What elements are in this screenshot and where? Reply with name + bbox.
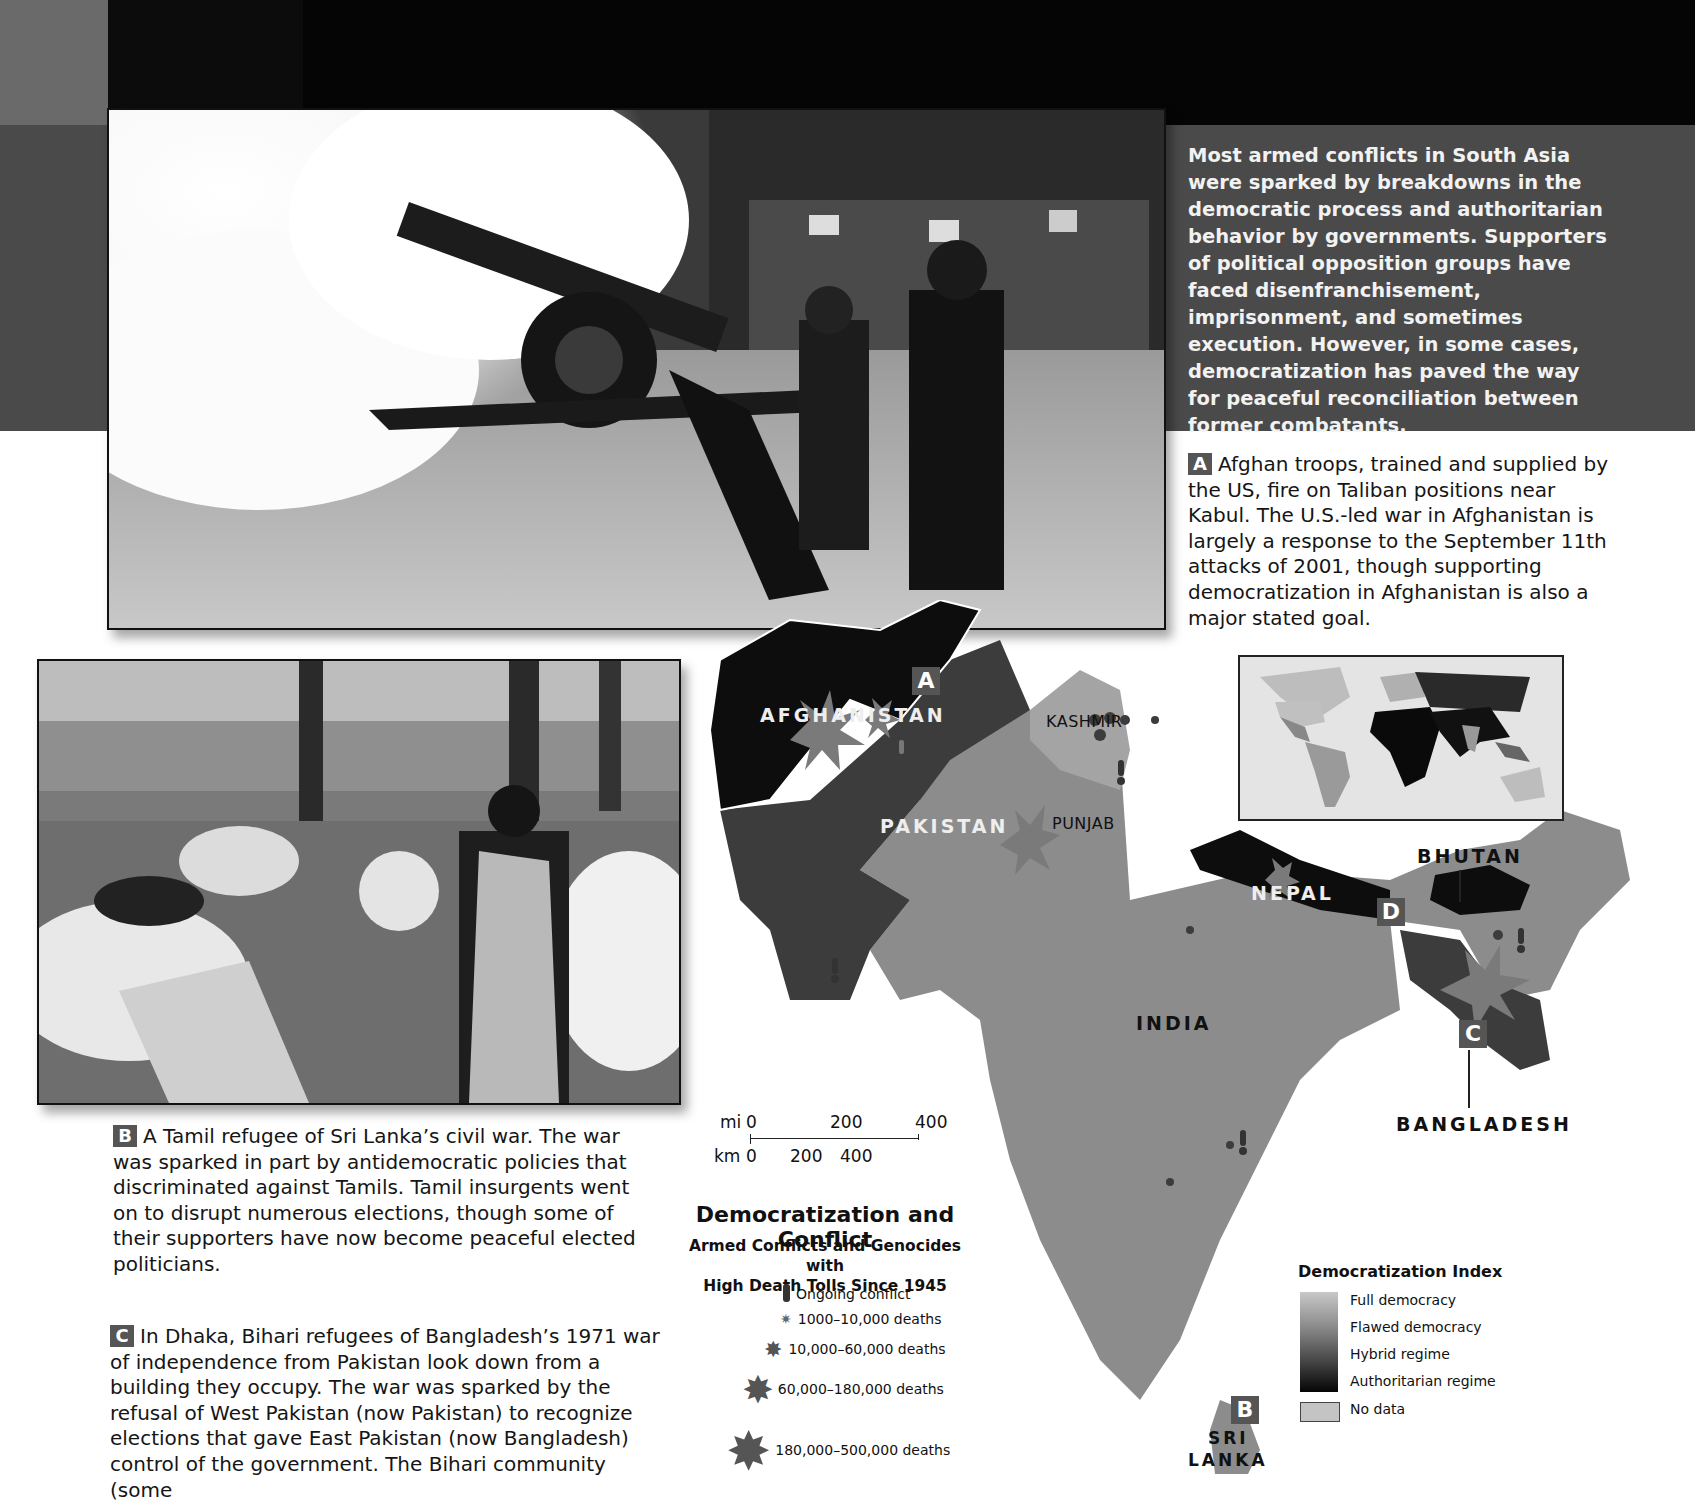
legend-item-ongoing: Ongoing conflict (783, 1284, 910, 1302)
black-corner-block (108, 0, 303, 108)
scale-km-label: km (714, 1146, 740, 1166)
legend-label: 1000–10,000 deaths (798, 1311, 942, 1327)
refugee-photo-illustration (39, 661, 679, 1103)
label-kashmir: KASHMIR (1046, 712, 1122, 731)
scale-line (750, 1138, 918, 1139)
label-sri-lanka-line1: SRI (1208, 1428, 1249, 1448)
legend-authoritarian-regime: Authoritarian regime (1350, 1373, 1496, 1389)
democratization-legend: Democratization Index Full democracy Fla… (1298, 1262, 1518, 1287)
democratization-gradient-swatch (1300, 1292, 1338, 1392)
label-bhutan: BHUTAN (1417, 845, 1523, 867)
exclamation-icon (783, 1284, 790, 1302)
burst-s-icon: ✸ (764, 1337, 782, 1362)
caption-badge-a: A (1188, 453, 1212, 475)
artillery-photo-illustration (109, 110, 1164, 628)
map-badge-b: B (1231, 1396, 1259, 1424)
scale-mi-tick-400: 400 (915, 1112, 947, 1132)
legend-hybrid-regime: Hybrid regime (1350, 1346, 1450, 1362)
burst-l-icon: ✸ (726, 1420, 771, 1483)
caption-b: BA Tamil refugee of Sri Lanka’s civil wa… (113, 1124, 643, 1278)
caption-c-text: In Dhaka, Bihari refugees of Bangladesh’… (110, 1324, 660, 1502)
legend-item-xs: ✷1000–10,000 deaths (780, 1311, 942, 1327)
label-afghanistan: AFGHANISTAN (760, 704, 946, 726)
label-india: INDIA (1136, 1012, 1212, 1034)
burst-m-icon: ✸ (742, 1368, 774, 1412)
legend-no-data: No data (1350, 1401, 1405, 1417)
world-inset-map (1238, 655, 1564, 821)
scale-tick (918, 1134, 919, 1140)
label-sri-lanka-line2: LANKA (1188, 1450, 1268, 1470)
legend-flawed-democracy: Flawed democracy (1350, 1319, 1482, 1335)
label-nepal: NEPAL (1251, 882, 1334, 904)
scale-tick (750, 1134, 751, 1144)
legend-label: Ongoing conflict (796, 1286, 910, 1302)
legend-label: 180,000–500,000 deaths (775, 1442, 950, 1458)
photo-afghan-artillery (107, 108, 1166, 630)
caption-c: CIn Dhaka, Bihari refugees of Bangladesh… (110, 1324, 670, 1503)
legend-full-democracy: Full democracy (1350, 1292, 1456, 1308)
scale-bar: mi 0 200 400 km 0 200 400 (720, 1112, 960, 1172)
caption-badge-c: C (110, 1325, 134, 1347)
democratization-legend-title: Democratization Index (1298, 1262, 1518, 1281)
label-pakistan: PAKISTAN (880, 815, 1008, 837)
legend-item-l: ✸180,000–500,000 deaths (726, 1420, 950, 1483)
legend-label: 60,000–180,000 deaths (778, 1381, 944, 1397)
caption-b-text: A Tamil refugee of Sri Lanka’s civil war… (113, 1124, 636, 1276)
map-badge-a: A (912, 667, 940, 695)
scale-mi-tick-0: 0 (746, 1112, 757, 1132)
no-data-swatch (1300, 1402, 1340, 1422)
scale-mi-label: mi (720, 1112, 741, 1132)
left-grey-strip (0, 0, 108, 130)
burst-xs-icon: ✷ (780, 1311, 792, 1327)
scale-km-tick-400: 400 (840, 1146, 872, 1166)
photo-tamil-refugee (37, 659, 681, 1105)
scale-km-tick-200: 200 (790, 1146, 822, 1166)
map-badge-c: C (1459, 1020, 1487, 1048)
map-badge-d: D (1377, 898, 1405, 926)
legend-item-m: ✸60,000–180,000 deaths (742, 1368, 944, 1412)
world-map-illustration (1240, 657, 1562, 819)
scale-mi-tick-200: 200 (830, 1112, 862, 1132)
label-punjab: PUNJAB (1052, 814, 1115, 833)
legend-subtitle-line1: Armed Conflicts and Genocides with (675, 1236, 975, 1276)
bangladesh-leader-line (1468, 1050, 1470, 1108)
label-bangladesh: BANGLADESH (1396, 1113, 1572, 1135)
bhutan-leader-line (1459, 870, 1461, 902)
legend-label: 10,000–60,000 deaths (788, 1341, 945, 1357)
caption-badge-b: B (113, 1125, 137, 1147)
scale-km-tick-0: 0 (746, 1146, 757, 1166)
legend-item-s: ✸10,000–60,000 deaths (764, 1337, 946, 1362)
intro-text: Most armed conflicts in South Asia were … (1188, 142, 1608, 439)
